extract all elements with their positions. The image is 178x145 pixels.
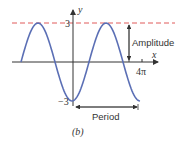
x-tick-label: 4π <box>136 66 146 77</box>
figure-caption: (b) <box>72 126 84 138</box>
period-label: Period <box>92 111 119 122</box>
y-axis-label: y <box>77 4 83 15</box>
y-max-label: 3 <box>65 18 70 29</box>
x-axis-label: x <box>151 49 157 60</box>
y-min-label: −3 <box>58 96 69 107</box>
diagram-canvas: y x 3 −3 4π Amplitude Period (b) <box>0 0 178 145</box>
sine-diagram: y x 3 −3 4π Amplitude Period (b) <box>0 0 178 145</box>
amplitude-label: Amplitude <box>132 37 174 48</box>
